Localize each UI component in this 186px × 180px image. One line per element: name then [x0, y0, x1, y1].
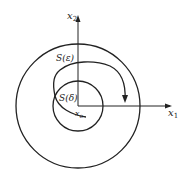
- s-delta-label: S(δ): [59, 93, 78, 103]
- stability-diagram: x2 x1 S(ε) S(δ) xe: [0, 0, 186, 180]
- x1-label: x1: [168, 107, 178, 120]
- equilibrium-label: xe: [75, 109, 84, 119]
- x2-label: x2: [67, 10, 77, 23]
- s-epsilon-label: S(ε): [56, 53, 75, 63]
- trajectory-arrow-icon: [122, 95, 128, 103]
- trajectory-curve: [54, 62, 126, 117]
- x1-axis: [78, 104, 172, 109]
